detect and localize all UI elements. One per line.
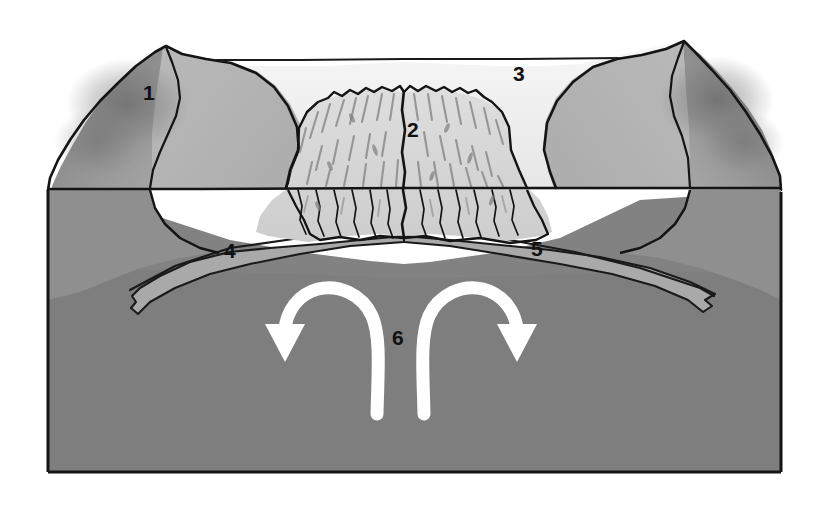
label-1: 1 (143, 82, 155, 103)
left-mountain-shadow-blotch-2 (54, 108, 142, 176)
figure-root: 1 2 3 4 5 6 (0, 0, 831, 505)
right-mountain-shadow-blotch-2 (700, 110, 784, 174)
sea-level-cut-line (48, 188, 781, 189)
label-6: 6 (392, 327, 404, 348)
label-2: 2 (407, 119, 419, 140)
label-3: 3 (513, 63, 525, 84)
label-4: 4 (224, 240, 236, 261)
label-5: 5 (531, 238, 543, 259)
seafloor-spreading-diagram (0, 0, 831, 505)
